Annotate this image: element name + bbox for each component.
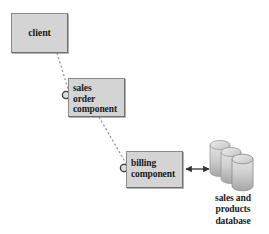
database-label-line-1: sales and (198, 193, 268, 204)
component-box-billing[interactable]: billing component (126, 151, 183, 188)
component-label-sales-order-line-1: sales (73, 83, 124, 94)
database-label-line-2: products (198, 204, 268, 215)
component-label-sales-order-line-2: order (73, 94, 124, 105)
component-box-sales-order[interactable]: sales order component (68, 78, 125, 117)
database-cylinder-front (232, 154, 253, 191)
connector-sales-order-to-billing (99, 117, 127, 165)
database-label-line-3: database (198, 216, 268, 227)
component-diagram-canvas: client sales order component billing com… (0, 0, 269, 234)
component-label-billing-line-2: component (131, 169, 182, 180)
database-label: sales and products database (198, 193, 268, 227)
component-label-sales-order-line-3: component (73, 104, 124, 115)
database-cylinder-stack-icon (210, 141, 253, 191)
component-label-billing-line-1: billing (131, 158, 182, 169)
component-box-client[interactable]: client (11, 13, 68, 53)
component-label-client: client (28, 27, 51, 38)
